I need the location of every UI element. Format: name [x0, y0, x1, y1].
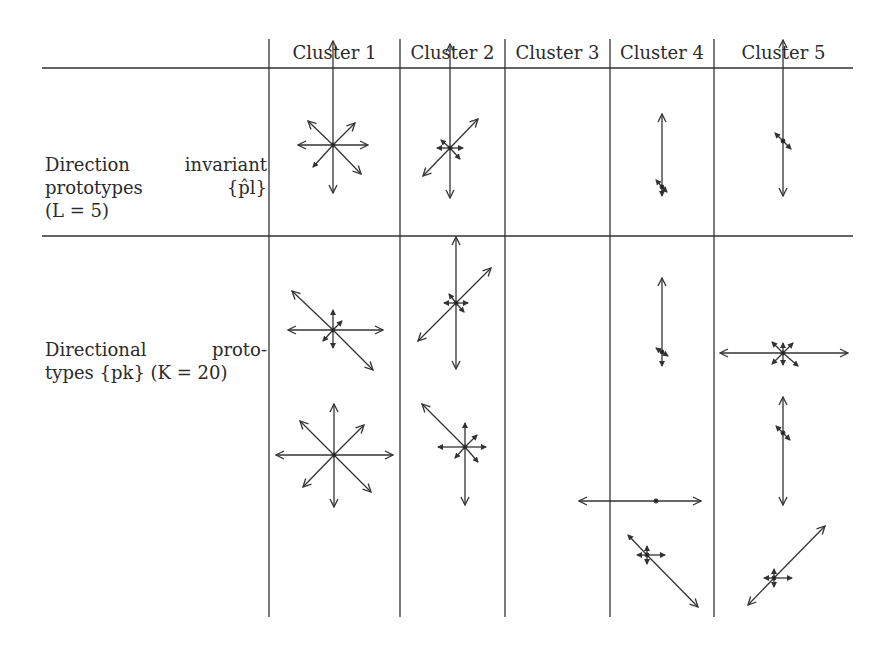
arrow-vector	[292, 291, 333, 330]
prototype-table-figure: Cluster 1 Cluster 2 Cluster 3 Cluster 4 …	[0, 0, 890, 649]
prototype-center-dot	[331, 328, 335, 332]
arrow-vector	[465, 447, 478, 462]
arrow-vector	[334, 455, 371, 492]
table-grid-and-arrows	[0, 0, 890, 649]
grid-lines	[42, 39, 853, 617]
arrow-vector	[647, 555, 698, 607]
arrow-vector	[333, 145, 361, 174]
arrow-vector	[628, 535, 647, 555]
prototype-center-dot	[454, 301, 458, 305]
arrow-vector	[422, 404, 465, 447]
prototype-center-dot	[781, 431, 785, 435]
arrow-vector	[300, 421, 334, 455]
arrow-vector	[774, 526, 825, 578]
arrow-vector	[418, 303, 456, 341]
prototype-center-dot	[781, 351, 785, 355]
arrow-vector	[333, 123, 355, 145]
arrow-vector	[313, 145, 333, 167]
arrow-vector	[748, 578, 774, 605]
arrow-vector	[303, 455, 334, 487]
arrow-vector	[456, 268, 491, 303]
prototype-center-dot	[448, 146, 452, 150]
prototype-center-dot	[332, 453, 336, 457]
prototype-center-dot	[772, 576, 776, 580]
arrow-vector	[308, 121, 333, 145]
arrow-vector	[450, 119, 478, 148]
prototype-center-dot	[660, 350, 664, 354]
arrow-vector	[783, 353, 798, 366]
prototype-center-dot	[645, 553, 649, 557]
arrow-vector	[334, 425, 364, 455]
arrow-vector	[333, 330, 373, 370]
prototype-center-dot	[654, 499, 658, 503]
arrow-vector	[423, 148, 450, 176]
prototype-center-dot	[463, 445, 467, 449]
prototype-center-dot	[660, 185, 664, 189]
prototype-center-dot	[781, 139, 785, 143]
prototype-center-dot	[331, 143, 335, 147]
arrow-vector	[465, 435, 477, 447]
